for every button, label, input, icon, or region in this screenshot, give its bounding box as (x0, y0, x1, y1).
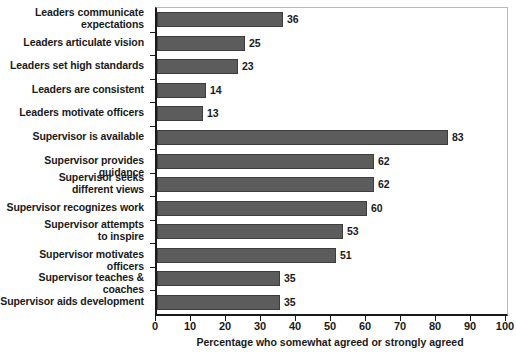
category-label: Supervisor aids development (0, 296, 144, 308)
bar-value-label: 36 (287, 12, 299, 27)
y-axis-tick (150, 32, 157, 33)
category-label: Leaders communicate expectations (35, 7, 144, 30)
y-axis-tick (150, 220, 157, 221)
y-axis-tick (150, 55, 157, 56)
category-axis-labels: Leaders communicate expectationsLeaders … (0, 7, 150, 313)
bar-value-label: 25 (249, 36, 261, 51)
category-label: Supervisor motivates officers (0, 249, 144, 272)
bar-value-label: 14 (210, 83, 222, 98)
x-axis-tick-label: 90 (464, 320, 476, 332)
y-axis-tick (150, 243, 157, 244)
bar-value-label: 35 (284, 295, 296, 310)
bar (157, 177, 374, 192)
bar-value-label: 51 (340, 248, 352, 263)
y-axis-tick (150, 290, 157, 291)
category-label: Leaders motivate officers (19, 107, 144, 119)
bar (157, 59, 238, 74)
bar (157, 224, 343, 239)
y-axis-tick (150, 149, 157, 150)
bar-value-label: 62 (378, 154, 390, 169)
y-axis-tick (150, 126, 157, 127)
x-axis-tick-label: 30 (254, 320, 266, 332)
bar (157, 83, 206, 98)
bar-value-label: 53 (347, 224, 359, 239)
x-axis-tick-label: 0 (152, 320, 158, 332)
x-axis-tick-label: 50 (324, 320, 336, 332)
y-axis-tick (150, 102, 157, 103)
bar-value-label: 35 (284, 271, 296, 286)
category-label: Leaders set high standards (10, 60, 144, 72)
y-axis-tick (150, 267, 157, 268)
category-label: Leaders articulate vision (23, 37, 144, 49)
horizontal-bar-chart: Leaders communicate expectationsLeaders … (0, 0, 516, 352)
category-label: Supervisor seeks different views (59, 172, 144, 195)
bar-value-label: 23 (242, 59, 254, 74)
x-axis-tick-label: 60 (359, 320, 371, 332)
bar (157, 36, 245, 51)
bar (157, 201, 367, 216)
x-axis-tick-label: 80 (429, 320, 441, 332)
plot-area: 36252314138362626053513535 (155, 7, 508, 316)
x-axis-tick-label: 40 (289, 320, 301, 332)
y-axis-tick (150, 79, 157, 80)
category-label: Leaders are consistent (32, 84, 144, 96)
category-label: Supervisor attempts to inspire (44, 219, 144, 242)
x-axis-tick-label: 100 (496, 320, 514, 332)
bar-value-label: 60 (371, 201, 383, 216)
bar (157, 248, 336, 263)
bar (157, 12, 283, 27)
bar (157, 154, 374, 169)
bar-value-label: 13 (207, 106, 219, 121)
x-axis-title: Percentage who somewhat agreed or strong… (155, 336, 505, 348)
category-label: Supervisor recognizes work (7, 202, 144, 214)
bar-value-label: 62 (378, 177, 390, 192)
x-axis-tick-label: 70 (394, 320, 406, 332)
bar (157, 106, 203, 121)
bar (157, 271, 280, 286)
bars-layer: 36252314138362626053513535 (157, 8, 507, 314)
bar (157, 295, 280, 310)
category-label: Supervisor teaches & coaches (0, 272, 144, 295)
x-axis-tick-labels: 0102030405060708090100 (0, 320, 516, 336)
x-axis-tick-label: 20 (219, 320, 231, 332)
bar (157, 130, 448, 145)
category-label: Supervisor is available (32, 131, 144, 143)
y-axis-tick (150, 173, 157, 174)
y-axis-tick (150, 196, 157, 197)
x-axis-tick-label: 10 (184, 320, 196, 332)
bar-value-label: 83 (452, 130, 464, 145)
